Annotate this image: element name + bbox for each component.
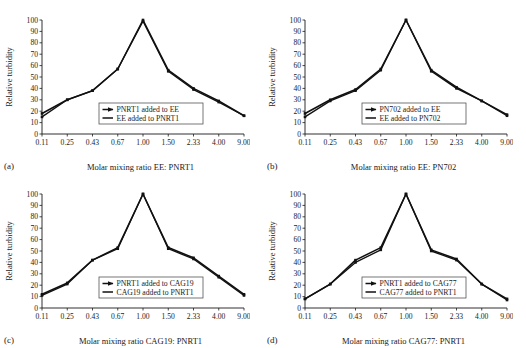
x-tick-label-a-2: 0.43 xyxy=(86,138,99,147)
data-point-c-1-4 xyxy=(142,193,145,196)
data-point-b-1-4 xyxy=(405,19,408,22)
legend-a: PNRT1 added to EEEE added to PNRT1 xyxy=(99,103,203,124)
y-tick-label-d-90: 90 xyxy=(293,201,301,210)
data-point-b-1-7 xyxy=(480,100,483,103)
plot-area-c: 01020304050607080901000.110.250.430.671.… xyxy=(18,188,250,334)
x-tick-label-c-7: 4.00 xyxy=(212,312,225,321)
x-tick-label-d-8: 9.00 xyxy=(500,312,513,321)
y-tick-label-a-40: 40 xyxy=(30,84,38,93)
data-point-b-1-0 xyxy=(304,116,307,119)
x-tick-label-b-7: 4.00 xyxy=(475,138,488,147)
y-tick-label-d-100: 100 xyxy=(290,190,302,199)
series-line-b-0 xyxy=(305,20,507,115)
data-point-b-1-5 xyxy=(430,70,433,73)
y-tick-label-a-90: 90 xyxy=(30,27,38,36)
data-point-a-1-1 xyxy=(66,99,69,102)
y-tick-label-b-20: 20 xyxy=(293,107,301,116)
legend-b: PN702 added to EEEE added to PN702 xyxy=(362,103,466,124)
data-point-c-1-6 xyxy=(192,258,195,261)
x-axis-label-c: Molar mixing ratio CAG19: PNRT1 xyxy=(0,336,263,346)
y-tick-label-c-70: 70 xyxy=(30,224,38,233)
figure-panel-grid: Relative turbidity 010203040506070809010… xyxy=(0,0,526,348)
data-point-d-1-6 xyxy=(455,259,458,262)
y-tick-label-d-30: 30 xyxy=(293,269,301,278)
y-tick-label-b-30: 30 xyxy=(293,95,301,104)
chart-panel-b: Relative turbidity 010203040506070809010… xyxy=(263,0,526,174)
x-tick-label-c-5: 1.50 xyxy=(162,312,175,321)
y-tick-label-c-90: 90 xyxy=(30,201,38,210)
plot-svg-d: 01020304050607080901000.110.250.430.671.… xyxy=(281,188,513,334)
x-tick-label-d-2: 0.43 xyxy=(349,312,362,321)
y-tick-label-c-30: 30 xyxy=(30,269,38,278)
chart-panel-d: Relative turbidity 010203040506070809010… xyxy=(263,174,526,348)
data-point-d-1-1 xyxy=(329,283,332,286)
panel-label-c: (c) xyxy=(4,335,14,345)
y-tick-label-a-100: 100 xyxy=(27,16,39,25)
x-axis-label-d: Molar mixing ratio CAG77: PNRT1 xyxy=(263,336,526,346)
data-point-c-1-8 xyxy=(243,294,246,297)
legend-label-c-1: CAG19 added to PNRT1 xyxy=(117,288,194,297)
y-tick-label-d-60: 60 xyxy=(293,235,301,244)
data-point-b-0-0 xyxy=(304,112,307,115)
x-tick-label-b-3: 0.67 xyxy=(374,138,387,147)
y-axis-label-a: Relative turbidity xyxy=(2,18,16,136)
data-point-a-1-6 xyxy=(192,88,195,91)
y-tick-label-b-100: 100 xyxy=(290,16,302,25)
x-tick-label-b-0: 0.11 xyxy=(298,138,311,147)
plot-svg-c: 01020304050607080901000.110.250.430.671.… xyxy=(18,188,250,334)
legend-c: PNRT1 added to CAG19CAG19 added to PNRT1 xyxy=(99,277,203,298)
y-tick-label-c-80: 80 xyxy=(30,212,38,221)
y-tick-label-c-40: 40 xyxy=(30,258,38,267)
data-point-c-1-3 xyxy=(116,247,119,250)
series-line-a-0 xyxy=(42,20,244,116)
data-point-c-1-0 xyxy=(41,294,44,297)
series-line-b-1 xyxy=(305,20,507,117)
data-point-b-1-1 xyxy=(329,100,332,103)
data-point-d-1-7 xyxy=(480,283,483,286)
x-tick-label-d-1: 0.25 xyxy=(324,312,337,321)
x-axis-label-b: Molar mixing ratio EE: PN702 xyxy=(263,162,526,172)
y-tick-label-a-20: 20 xyxy=(30,107,38,116)
x-tick-label-a-5: 1.50 xyxy=(162,138,175,147)
x-tick-label-b-2: 0.43 xyxy=(349,138,362,147)
panel-label-d: (d) xyxy=(267,335,278,345)
x-tick-label-d-3: 0.67 xyxy=(374,312,387,321)
panel-label-b: (b) xyxy=(267,161,278,171)
plot-svg-b: 01020304050607080901000.110.250.430.671.… xyxy=(281,14,513,160)
y-tick-label-b-70: 70 xyxy=(293,50,301,59)
data-point-a-1-3 xyxy=(116,68,119,71)
y-tick-label-a-30: 30 xyxy=(30,95,38,104)
data-point-b-1-2 xyxy=(354,89,357,92)
x-tick-label-d-0: 0.11 xyxy=(298,312,311,321)
x-tick-label-b-1: 0.25 xyxy=(324,138,337,147)
legend-label-a-1: EE added to PNRT1 xyxy=(117,114,180,123)
x-tick-label-c-6: 2.33 xyxy=(187,312,200,321)
x-tick-label-a-1: 0.25 xyxy=(61,138,74,147)
y-axis-label-b: Relative turbidity xyxy=(265,18,279,136)
data-point-d-0-2 xyxy=(354,259,357,262)
legend-label-d-1: CAG77 added to PNRT1 xyxy=(380,288,457,297)
y-tick-label-b-10: 10 xyxy=(293,118,301,127)
x-tick-label-c-3: 0.67 xyxy=(111,312,124,321)
x-tick-label-c-8: 9.00 xyxy=(237,312,250,321)
x-tick-label-d-6: 2.33 xyxy=(450,312,463,321)
data-point-c-1-1 xyxy=(66,283,69,286)
data-point-b-1-6 xyxy=(455,87,458,90)
y-tick-label-c-50: 50 xyxy=(30,247,38,256)
x-tick-label-d-4: 1.00 xyxy=(399,312,412,321)
y-tick-label-a-60: 60 xyxy=(30,61,38,70)
data-point-d-1-0 xyxy=(304,298,307,301)
legend-d: PNRT1 added to CAG77CAG77 added to PNRT1 xyxy=(362,277,466,298)
x-tick-label-a-0: 0.11 xyxy=(35,138,48,147)
chart-panel-c: Relative turbidity 010203040506070809010… xyxy=(0,174,263,348)
x-tick-label-a-8: 9.00 xyxy=(237,138,250,147)
y-tick-label-a-50: 50 xyxy=(30,73,38,82)
y-tick-label-c-100: 100 xyxy=(27,190,39,199)
x-tick-label-b-5: 1.50 xyxy=(425,138,438,147)
x-tick-label-d-7: 4.00 xyxy=(475,312,488,321)
y-tick-label-d-10: 10 xyxy=(293,292,301,301)
data-point-c-1-5 xyxy=(167,247,170,250)
data-point-a-1-8 xyxy=(243,114,246,117)
data-point-b-1-8 xyxy=(506,114,509,117)
data-point-a-1-0 xyxy=(41,116,44,119)
